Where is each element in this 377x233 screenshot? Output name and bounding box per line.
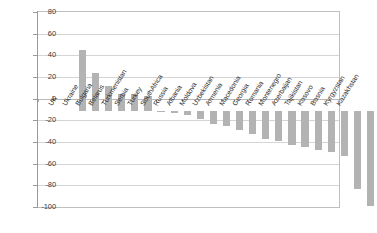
y-tick-mark [33, 207, 37, 208]
y-tick-mark [33, 120, 37, 121]
y-tick-label: -80 [45, 181, 56, 189]
bar-slot [105, 24, 112, 219]
bar[interactable] [157, 111, 164, 112]
bar[interactable] [354, 111, 361, 189]
bar-slot [262, 24, 269, 219]
y-tick-label: -40 [45, 138, 56, 146]
bar[interactable] [288, 111, 295, 146]
bar-slot [249, 24, 256, 219]
bar-slot [223, 24, 230, 219]
y-tick-label: 80 [48, 8, 56, 16]
bar[interactable] [275, 111, 282, 141]
y-tick-label: -100 [41, 203, 56, 211]
bar[interactable] [197, 111, 204, 120]
bar-slot [144, 24, 151, 219]
bar[interactable] [249, 111, 256, 135]
bar-slot [367, 24, 374, 219]
bar-slot [328, 24, 335, 219]
bar[interactable] [301, 111, 308, 148]
bar-slot [118, 24, 125, 219]
bar[interactable] [236, 111, 243, 131]
y-tick-label: -60 [45, 160, 56, 168]
bar-slot [288, 24, 295, 219]
bar-slot [341, 24, 348, 219]
y-tick-mark [33, 99, 37, 100]
bars-layer [76, 24, 377, 219]
bar-slot [236, 24, 243, 219]
bar-slot [275, 24, 282, 219]
bar-slot [157, 24, 164, 219]
bar[interactable] [262, 111, 269, 139]
y-tick-label: 60 [48, 30, 56, 38]
bar[interactable] [367, 111, 374, 206]
y-tick-label: 20 [48, 73, 56, 81]
bar-slot [354, 24, 361, 219]
bar[interactable] [328, 111, 335, 152]
y-tick-label: -20 [45, 116, 56, 124]
bar[interactable] [171, 111, 178, 113]
x-tick-mark [38, 99, 39, 102]
bar[interactable] [210, 111, 217, 124]
bar-slot [79, 24, 86, 219]
bar-slot [315, 24, 322, 219]
plot-area [37, 11, 340, 208]
bar-slot [301, 24, 308, 219]
y-axis-line [37, 11, 38, 208]
bar[interactable] [315, 111, 322, 150]
y-tick-mark [33, 55, 37, 56]
bar-slot [210, 24, 217, 219]
y-tick-label: 40 [48, 51, 56, 59]
bar-slot [92, 24, 99, 219]
bar[interactable] [184, 111, 191, 115]
y-tick-mark [33, 12, 37, 13]
y-tick-mark [33, 185, 37, 186]
bar-slot [184, 24, 191, 219]
bar-slot [131, 24, 138, 219]
y-tick-mark [33, 34, 37, 35]
bar-slot [171, 24, 178, 219]
y-tick-mark [33, 164, 37, 165]
bar[interactable] [223, 111, 230, 126]
y-tick-mark [33, 77, 37, 78]
y-tick-mark [33, 142, 37, 143]
bar[interactable] [341, 111, 348, 157]
bar-slot [197, 24, 204, 219]
